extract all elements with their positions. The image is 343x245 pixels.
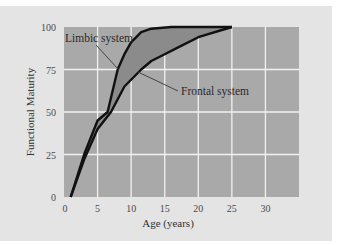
y-tick-label: 100	[41, 22, 56, 33]
y-tick-label: 0	[51, 192, 56, 203]
limbic-system-label: Limbic system	[65, 32, 133, 45]
chart-svg: Limbic system Frontal system 05101520253…	[0, 0, 343, 245]
x-tick-label: 20	[193, 203, 203, 214]
y-tick-label: 50	[46, 107, 56, 118]
x-tick-label: 10	[126, 203, 136, 214]
frontal-system-label: Frontal system	[181, 85, 249, 98]
x-axis-title: Age (years)	[142, 217, 194, 230]
x-tick-label: 0	[63, 203, 68, 214]
x-tick-label: 5	[95, 203, 100, 214]
y-tick-label: 25	[46, 150, 56, 161]
y-tick-label: 75	[46, 65, 56, 76]
y-axis-title: Functional Maturity	[24, 67, 36, 156]
x-axis-ticks: 051015202530	[63, 203, 271, 214]
x-tick-label: 15	[160, 203, 170, 214]
x-tick-label: 25	[227, 203, 237, 214]
y-axis-ticks: 0255075100	[41, 22, 56, 203]
x-tick-label: 30	[260, 203, 270, 214]
